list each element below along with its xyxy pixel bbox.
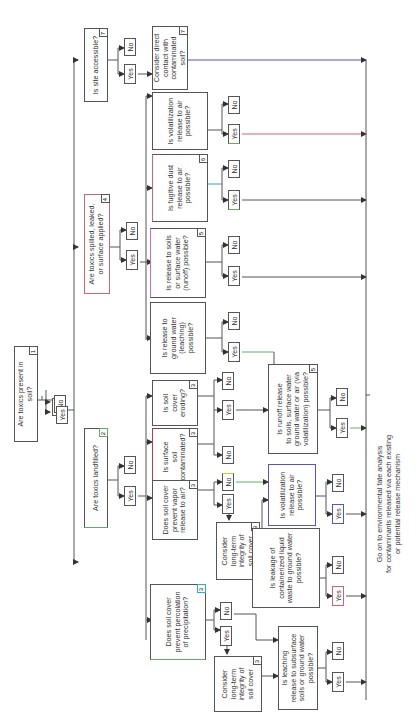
step-number: 4 xyxy=(101,194,110,203)
flowchart-canvas: Are toxics present in soil? 1 No No Yes … xyxy=(0,0,416,720)
step-number: 5 xyxy=(309,364,318,373)
node-surface-soil-contaminated: Is surface soil contaminated? 3 xyxy=(152,428,198,486)
runoff2-yes: Yes xyxy=(336,418,348,438)
node-fugitive-dust: Is fugitive dust release to air possible… xyxy=(152,154,208,222)
step-number: 3 xyxy=(189,428,198,437)
node-toxics-landfilled: Are toxics landfilled? 2 xyxy=(84,428,108,528)
erode-yes: Yes xyxy=(222,400,234,420)
q4-no: No xyxy=(126,222,138,240)
connector-lines xyxy=(0,0,416,720)
step-number: 3 xyxy=(189,380,198,389)
node-volatilization-air-2: Is volatilization release to air possibl… xyxy=(268,464,316,526)
node-volatilization-air: Is volatilization release to air possibl… xyxy=(152,92,208,150)
perc-yes: Yes xyxy=(220,626,232,646)
vol2-no: No xyxy=(332,474,344,492)
vol-air-no: No xyxy=(228,96,240,114)
node-leaching-subsurface: Is leaching release to subsurface soils … xyxy=(278,626,318,710)
q7-yes: Yes xyxy=(124,64,136,84)
runoff-yes: Yes xyxy=(228,266,240,286)
step-number: 7 xyxy=(179,26,188,35)
q2-yes: Yes xyxy=(124,486,136,506)
erode-no: No xyxy=(222,372,234,390)
step-number: 3 xyxy=(197,584,206,593)
vol2-yes: Yes xyxy=(332,504,344,524)
runoff2-no: No xyxy=(336,388,348,406)
node-soil-cover-percolation: Does soil cover prevent percolation of p… xyxy=(150,584,206,660)
leach-gw-yes: Yes xyxy=(228,342,240,362)
node-toxics-present: Are toxics present in soil? 1 xyxy=(14,346,38,442)
step-number: 3 xyxy=(189,480,198,489)
step-number: 5 xyxy=(197,228,206,237)
node-soil-cover-vapor: Does soil cover prevent vapor release to… xyxy=(152,480,198,540)
step-number: 3 xyxy=(253,656,262,665)
node-leaching-ground-water: Is release to ground water (leaching) po… xyxy=(150,302,206,374)
vol-air-yes: Yes xyxy=(228,124,240,144)
node-site-accessible: Is site accessible? 7 xyxy=(84,28,108,102)
node-runoff-release-2: Is runoff release to soils, surface wate… xyxy=(268,364,318,454)
q7-no: No xyxy=(124,38,136,56)
step-number: 1 xyxy=(29,346,38,355)
node-direct-contact: Consider direct contact with contaminate… xyxy=(152,26,188,90)
leakage-no: No xyxy=(332,556,344,574)
runoff-no: No xyxy=(228,236,240,254)
step-number: 2 xyxy=(99,428,108,437)
dust-yes: Yes xyxy=(228,190,240,210)
q2-no: No xyxy=(124,456,136,474)
node-toxics-spilled: Are toxics spilled, leaked, or surface a… xyxy=(84,194,110,294)
perc-no: No xyxy=(220,602,232,620)
leach-gw-no: No xyxy=(228,312,240,330)
vapor-yes: Yes xyxy=(222,494,234,514)
leach-sub-no: No xyxy=(332,642,344,660)
q1-yes: Yes xyxy=(56,406,68,424)
q4-yes: Yes xyxy=(126,250,138,270)
leakage-yes: Yes xyxy=(332,586,344,606)
node-runoff-release: Is release to soils or surface water (ru… xyxy=(150,228,206,298)
vapor-no: No xyxy=(222,473,234,491)
surf-cont-no: No xyxy=(222,446,234,464)
node-leakage-containerized: Is leakage of containerized liquid waste… xyxy=(252,528,320,608)
node-long-term-integrity-2: Consider long-term integrity of soil cov… xyxy=(214,656,262,712)
node-soil-cover-eroding: Is soil cover eroding? 3 xyxy=(152,380,198,426)
dust-no: No xyxy=(228,160,240,178)
step-number: 7 xyxy=(99,28,108,37)
leach-sub-yes: Yes xyxy=(332,672,344,692)
step-number: 6 xyxy=(199,154,208,163)
footer-conclusion: Go on to environmental fate analysis for… xyxy=(375,435,402,573)
